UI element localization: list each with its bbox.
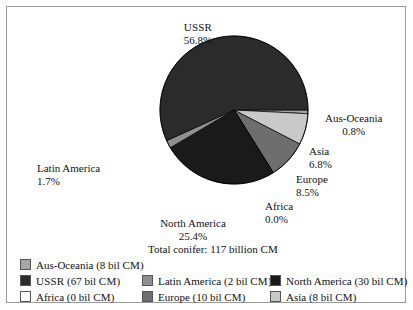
pie-label-north-america: North America 25.4% [133,217,253,242]
legend-row: Aus-Oceania (8 bil CM) [20,258,406,273]
pie-chart-figure: USSR 56.8% Aus-Oceania 0.8% Asia 6.8% Eu… [0,0,413,310]
total-conifer-unit: CM [260,243,278,255]
pie-label-north-america-name: North America [160,217,226,229]
legend-item-latin-america[interactable]: Latin America (2 bil CM) [142,274,271,289]
pie-label-aus-oceania-pct: 0.8% [325,125,382,138]
pie-label-europe-pct: 8.5% [296,186,328,199]
pie-label-north-america-pct: 25.4% [133,230,253,243]
legend-swatch-aus-oceania [20,259,31,270]
pie-label-latin-america-name: Latin America [37,162,100,174]
total-conifer-text: Total conifer: 117 billion [148,243,260,255]
pie-label-ussr: USSR 56.8% [155,21,241,46]
pie-label-africa: Africa 0.0% [265,200,293,225]
legend-row: Africa (0 bil CM) Europe (10 bil CM) Asi… [20,290,406,305]
pie-label-latin-america-pct: 1.7% [37,175,100,188]
pie-label-asia: Asia 6.8% [309,145,332,170]
pie-svg [159,35,309,185]
pie-label-europe-name: Europe [296,173,328,185]
legend-label-aus-oceania: Aus-Oceania (8 bil CM) [36,259,144,271]
legend-label-latin-america: Latin America (2 bil CM) [158,275,271,287]
legend-label-north-america: North America (30 bil CM) [286,275,407,287]
legend-item-north-america[interactable]: North America (30 bil CM) [270,274,407,289]
legend-swatch-latin-america [142,275,153,286]
pie-label-europe: Europe 8.5% [296,173,328,198]
pie-label-africa-pct: 0.0% [265,213,293,226]
top-caption [40,0,360,3]
pie-label-ussr-name: USSR [184,21,212,33]
legend-label-europe: Europe (10 bil CM) [158,291,246,303]
pie-label-africa-name: Africa [265,200,293,212]
pie-label-ussr-pct: 56.8% [155,34,241,47]
legend-item-africa[interactable]: Africa (0 bil CM) [20,290,114,305]
legend-swatch-asia [270,291,281,302]
pie-label-aus-oceania-name: Aus-Oceania [325,112,382,124]
legend-swatch-ussr [20,275,31,286]
legend-item-asia[interactable]: Asia (8 bil CM) [270,290,356,305]
pie-label-latin-america: Latin America 1.7% [37,162,100,187]
total-conifer-note: Total conifer: 117 billion CM [103,243,323,255]
chart-frame: USSR 56.8% Aus-Oceania 0.8% Asia 6.8% Eu… [6,6,406,303]
legend-item-ussr[interactable]: USSR (67 bil CM) [20,274,120,289]
pie-graphic [159,35,309,185]
legend-label-africa: Africa (0 bil CM) [36,291,114,303]
legend: Aus-Oceania (8 bil CM) USSR (67 bil CM) … [20,258,406,306]
legend-row: USSR (67 bil CM) Latin America (2 bil CM… [20,274,406,289]
legend-swatch-europe [142,291,153,302]
legend-swatch-north-america [270,275,281,286]
legend-item-aus-oceania[interactable]: Aus-Oceania (8 bil CM) [20,258,144,273]
legend-label-asia: Asia (8 bil CM) [286,291,356,303]
legend-label-ussr: USSR (67 bil CM) [36,275,120,287]
legend-item-europe[interactable]: Europe (10 bil CM) [142,290,246,305]
pie-label-asia-pct: 6.8% [309,158,332,171]
pie-label-aus-oceania: Aus-Oceania 0.8% [325,112,382,137]
pie-label-asia-name: Asia [309,145,329,157]
legend-swatch-africa [20,291,31,302]
